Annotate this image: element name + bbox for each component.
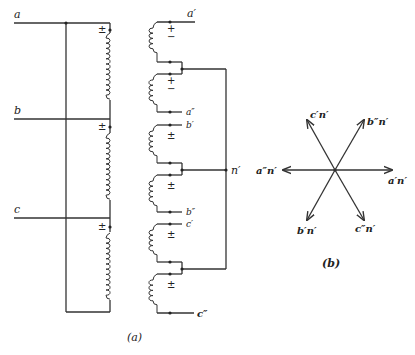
secondary-coil — [149, 274, 157, 313]
secondary-pair-a: a′ + − + − a″ — [149, 7, 197, 117]
neutral-junction-dot — [224, 168, 227, 171]
secondary-winding-group: n′ a′ + − + − a″ b′ — [149, 7, 241, 319]
secondary-coil — [149, 74, 157, 112]
polarity-mark: ± — [167, 229, 175, 240]
polarity-mark-b: ± — [98, 121, 106, 132]
line-b-label: b — [14, 104, 21, 117]
phasor-arrow-b-double-prime — [335, 120, 364, 170]
polarity-mark-c: ± — [98, 221, 106, 232]
phasor-label-b-prime: b′n′ — [297, 225, 317, 236]
polarity-dot — [108, 28, 111, 31]
polarity-dot — [168, 123, 171, 126]
phasor-label-a-double-prime: a″n′ — [256, 165, 277, 176]
caption-a: (a) — [127, 331, 142, 344]
primary-winding-group: a b c ± ± ± — [14, 8, 112, 312]
phasor-label-c-prime: c′n′ — [310, 109, 329, 120]
terminal-b-prime: b′ — [186, 120, 194, 130]
terminal-dot — [168, 311, 171, 314]
line-a-label: a — [14, 8, 21, 21]
phasor-diagram: a′n′ b″n′ c′n′ a″n′ b′n′ c″n′ — [256, 109, 407, 236]
primary-coil-b — [106, 133, 110, 199]
junction-dot — [180, 67, 183, 70]
phasor-label-a-prime: a′n′ — [388, 175, 407, 186]
line-c-label: c — [14, 203, 20, 216]
polarity-mark: ± — [167, 180, 175, 191]
secondary-coil — [149, 175, 157, 212]
secondary-coil — [149, 125, 157, 163]
polarity-mark-a: ± — [98, 24, 106, 35]
phasor-label-c-double-prime: c″n′ — [355, 223, 376, 234]
junction-dot — [168, 60, 171, 63]
phasor-arrow-c-double-prime — [335, 170, 364, 220]
junction-dot — [64, 21, 67, 24]
polarity-dot — [168, 173, 171, 176]
primary-coil-a — [106, 33, 110, 99]
polarity-dot — [168, 222, 171, 225]
secondary-coil — [149, 224, 157, 262]
polarity-dot — [108, 125, 111, 128]
junction-dot — [180, 168, 183, 171]
polarity-dot — [168, 272, 171, 275]
junction-dot — [168, 161, 171, 164]
caption-b: (b) — [322, 257, 340, 270]
neutral-label: n′ — [231, 164, 241, 177]
primary-coil-c — [106, 233, 110, 299]
polarity-mark: ± — [167, 130, 175, 141]
terminal-dot — [168, 110, 171, 113]
phasor-arrow-c-prime — [307, 120, 335, 170]
secondary-coil — [149, 22, 157, 62]
terminal-c-double-prime: c″ — [197, 308, 208, 319]
minus-mark: − — [167, 31, 175, 42]
phasor-arrow-b-prime — [307, 170, 335, 220]
terminal-a-prime: a′ — [187, 7, 197, 20]
junction-dot — [180, 267, 183, 270]
polarity-dot — [108, 225, 111, 228]
terminal-dot — [168, 210, 171, 213]
phasor-label-b-double-prime: b″n′ — [367, 116, 389, 127]
polarity-mark: ± — [167, 279, 175, 290]
minus-mark: − — [167, 83, 175, 94]
transformer-diagram: a b c ± ± ± — [0, 0, 415, 355]
secondary-pair-b: b′ ± ± b″ — [149, 120, 196, 217]
terminal-c-prime: c′ — [186, 219, 193, 229]
terminal-b-double-prime: b″ — [186, 207, 196, 217]
terminal-a-double-prime: a″ — [186, 107, 195, 117]
junction-dot — [168, 260, 171, 263]
